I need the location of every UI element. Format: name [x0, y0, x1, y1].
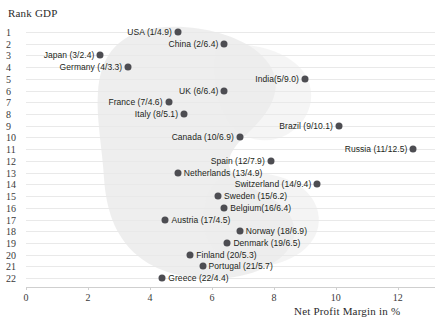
data-point-label: Switzerland (14/9.4): [235, 179, 312, 189]
x-tick-mark: [274, 287, 275, 290]
gridline: [26, 44, 435, 45]
data-point-label: Sweden (15/6.2): [224, 191, 287, 201]
y-tick-label: 2: [6, 38, 24, 49]
x-axis-ticks: 024681012: [26, 287, 435, 307]
x-tick-mark: [88, 287, 89, 290]
data-point[interactable]: [314, 181, 321, 188]
data-point-label: France (7/4.6): [108, 97, 162, 107]
x-tick-mark: [336, 287, 337, 290]
data-point[interactable]: [159, 275, 166, 282]
data-point-label: Brazil (9/10.1): [279, 121, 333, 131]
data-point[interactable]: [187, 251, 194, 258]
y-tick-label: 21: [6, 261, 24, 272]
data-point-label: Japan (3/2.4): [44, 50, 95, 60]
y-tick-label: 15: [6, 191, 24, 202]
x-tick-label: 0: [24, 292, 29, 303]
data-point[interactable]: [410, 146, 417, 153]
gridline: [26, 126, 435, 127]
data-point-label: Italy (8/5.1): [135, 109, 178, 119]
y-tick-label: 1: [6, 26, 24, 37]
data-point-label: Greece (22/4.4): [168, 273, 228, 283]
data-point-label: Portugal (21/5.7): [209, 261, 273, 271]
x-tick-mark: [150, 287, 151, 290]
y-axis-ticks: 12345678910111213141516171819202122: [4, 26, 24, 284]
y-tick-label: 18: [6, 226, 24, 237]
data-point[interactable]: [174, 28, 181, 35]
data-point[interactable]: [199, 263, 206, 270]
x-tick-mark: [398, 287, 399, 290]
gridline: [26, 220, 435, 221]
data-point-label: Austria (17/4.5): [171, 215, 230, 225]
data-point-label: Russia (11/12.5): [345, 144, 408, 154]
y-tick-label: 3: [6, 50, 24, 61]
data-point-label: Denmark (19/6.5): [233, 238, 300, 248]
x-tick-mark: [26, 287, 27, 290]
data-point-label: Spain (12/7.9): [211, 156, 265, 166]
data-point[interactable]: [174, 169, 181, 176]
y-tick-label: 10: [6, 132, 24, 143]
y-tick-label: 12: [6, 155, 24, 166]
y-tick-label: 11: [6, 144, 24, 155]
y-tick-label: 22: [6, 273, 24, 284]
y-tick-label: 4: [6, 62, 24, 73]
data-point-label: UK (6/6.4): [179, 86, 218, 96]
x-axis-title: Net Profit Margin in %: [294, 305, 400, 317]
gridline: [26, 79, 435, 80]
data-point[interactable]: [267, 157, 274, 164]
gridline: [26, 231, 435, 232]
data-point-label: Germany (4/3.3): [60, 62, 123, 72]
data-point-label: Belgium(16/6.4): [230, 203, 291, 213]
x-tick-mark: [212, 287, 213, 290]
x-tick-label: 12: [393, 292, 403, 303]
gridline: [26, 114, 435, 115]
y-tick-label: 13: [6, 167, 24, 178]
y-tick-label: 6: [6, 85, 24, 96]
data-point[interactable]: [221, 87, 228, 94]
y-tick-label: 14: [6, 179, 24, 190]
y-tick-label: 17: [6, 214, 24, 225]
data-point-label: Netherlands (13/4.9): [184, 168, 263, 178]
y-tick-label: 20: [6, 249, 24, 260]
y-tick-label: 5: [6, 73, 24, 84]
data-point-label: USA (1/4.9): [127, 27, 172, 37]
x-tick-label: 8: [271, 292, 276, 303]
gridline: [26, 102, 435, 103]
data-point-label: China (2/6.4): [169, 39, 219, 49]
x-tick-label: 2: [85, 292, 90, 303]
data-point[interactable]: [335, 122, 342, 129]
y-tick-label: 9: [6, 120, 24, 131]
scatter-chart: Rank GDP USA (1/4.9)China (2/6.4)Japan (…: [0, 0, 441, 327]
plot-area: USA (1/4.9)China (2/6.4)Japan (3/2.4)Ger…: [26, 26, 435, 284]
data-point[interactable]: [125, 64, 132, 71]
data-point[interactable]: [162, 216, 169, 223]
data-point[interactable]: [236, 134, 243, 141]
data-point[interactable]: [181, 110, 188, 117]
gridline: [26, 278, 435, 279]
x-tick-label: 10: [331, 292, 341, 303]
gridline: [26, 91, 435, 92]
x-tick-label: 6: [209, 292, 214, 303]
data-point[interactable]: [215, 193, 222, 200]
data-point[interactable]: [221, 204, 228, 211]
x-tick-label: 4: [147, 292, 152, 303]
data-point[interactable]: [224, 239, 231, 246]
data-point[interactable]: [165, 99, 172, 106]
data-point-label: India(5/9.0): [255, 74, 299, 84]
gridline: [26, 184, 435, 185]
y-tick-label: 8: [6, 108, 24, 119]
data-point[interactable]: [97, 52, 104, 59]
data-point[interactable]: [236, 228, 243, 235]
data-point[interactable]: [301, 75, 308, 82]
data-point-label: Canada (10/6.9): [172, 132, 234, 142]
y-axis-title: Rank GDP: [8, 7, 58, 19]
y-tick-label: 16: [6, 202, 24, 213]
data-point-label: Finland (20/5.3): [196, 250, 256, 260]
y-tick-label: 7: [6, 97, 24, 108]
data-point[interactable]: [221, 40, 228, 47]
y-tick-label: 19: [6, 237, 24, 248]
data-point-label: Norway (18/6.9): [246, 226, 307, 236]
gridline: [26, 32, 435, 33]
